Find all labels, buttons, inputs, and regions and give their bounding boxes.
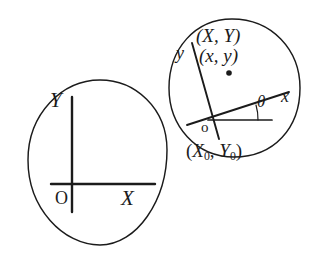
left-y-axis-label: Y [50,90,62,111]
y0-symbol: Y [219,140,230,161]
right-y-axis-label: y [176,44,184,62]
figure-canvas: Y X O (X, Y) (x, y) y x θ o (X0, Y0) [0,0,324,259]
y0-subscript: 0 [230,150,236,163]
global-point-label: (X, Y) [196,26,240,45]
x0-subscript: 0 [204,150,210,163]
local-point-label: (x, y) [199,46,238,65]
local-origin-global-coords-label: (X0, Y0) [186,141,242,160]
paren-close: ) [236,140,242,161]
left-x-axis-label: X [121,188,134,209]
point-marker [226,70,232,76]
theta-angle-label: θ [257,93,265,110]
coords-comma: , [210,140,220,161]
left-origin-label: O [55,189,68,207]
left-ellipse-outline [28,80,167,245]
right-x-axis-label: x [281,87,289,105]
right-origin-label: o [201,120,209,135]
x0-symbol: X [192,140,204,161]
